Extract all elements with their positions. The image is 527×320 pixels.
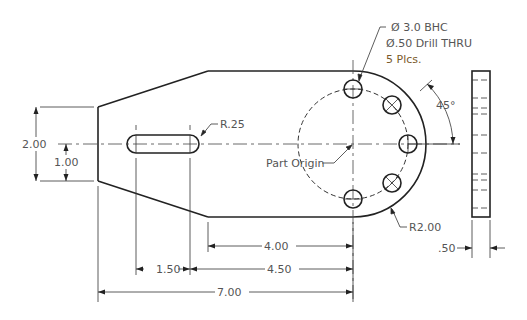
side-view	[457, 71, 505, 258]
dim-1-50: 1.50	[156, 263, 181, 276]
outer-radius-label: R2.00	[409, 221, 441, 234]
technical-drawing: Ø 3.0 BHC Ø.50 Drill THRU 5 Plcs. R.25 4…	[0, 0, 527, 320]
dim-7-00: 7.00	[217, 286, 242, 299]
bolt-holes	[344, 80, 417, 208]
angle-label: 45°	[436, 99, 456, 112]
dim-4-00: 4.00	[264, 240, 289, 253]
dim-height-half: 1.00	[54, 156, 79, 169]
dim-height-total: 2.00	[22, 138, 47, 151]
part-origin-label: Part Origin	[266, 157, 324, 170]
dim-thickness: .50	[438, 242, 456, 255]
dimension-lines	[34, 84, 456, 295]
hole-note-count: 5 Plcs.	[386, 53, 421, 66]
dim-4-50: 4.50	[267, 263, 292, 276]
hole-note-bhc: Ø 3.0 BHC	[391, 21, 448, 34]
slot-radius-label: R.25	[220, 118, 245, 131]
hole-note-drill: Ø.50 Drill THRU	[386, 37, 472, 50]
